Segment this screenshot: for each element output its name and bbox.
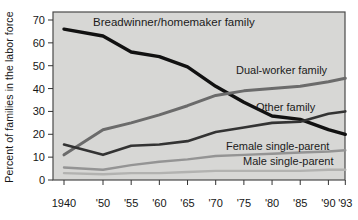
y-tick-label: 30 <box>33 105 45 117</box>
x-tick-label: '60 <box>152 197 166 209</box>
x-tick-label: '80 <box>265 197 279 209</box>
x-tick-label: '50 <box>96 197 110 209</box>
y-tick-label: 20 <box>33 128 45 140</box>
y-tick-label: 10 <box>33 151 45 163</box>
y-tick-label: 0 <box>39 174 45 186</box>
x-tick-label: '75 <box>237 197 251 209</box>
y-tick-label: 70 <box>33 14 45 26</box>
series-label-other-family: Other family <box>256 101 315 113</box>
y-tick-label: 60 <box>33 37 45 49</box>
x-tick-label: 1940 <box>52 197 76 209</box>
series-label-dual-worker: Dual-worker family <box>236 64 327 76</box>
series-label-breadwinner-homemaker: Breadwinner/homemaker family <box>93 16 255 28</box>
series-label-male-single-parent: Male single-parent <box>243 155 334 167</box>
x-tick-label: '70 <box>209 197 223 209</box>
y-tick-label: 40 <box>33 83 45 95</box>
y-tick-label: 50 <box>33 60 45 72</box>
y-axis-title: Percent of families in the labor force <box>3 11 15 182</box>
series-label-female-single-parent: Female single-parent <box>226 140 329 152</box>
x-tick-label: '90 <box>321 197 335 209</box>
x-tick-label: '93 <box>338 197 352 209</box>
x-tick-label: '65 <box>180 197 194 209</box>
x-tick-label: '85 <box>293 197 307 209</box>
x-tick-label: '55 <box>124 197 138 209</box>
line-chart-figure: 0102030405060701940'50'55'60'65'70'75'80… <box>0 0 358 220</box>
